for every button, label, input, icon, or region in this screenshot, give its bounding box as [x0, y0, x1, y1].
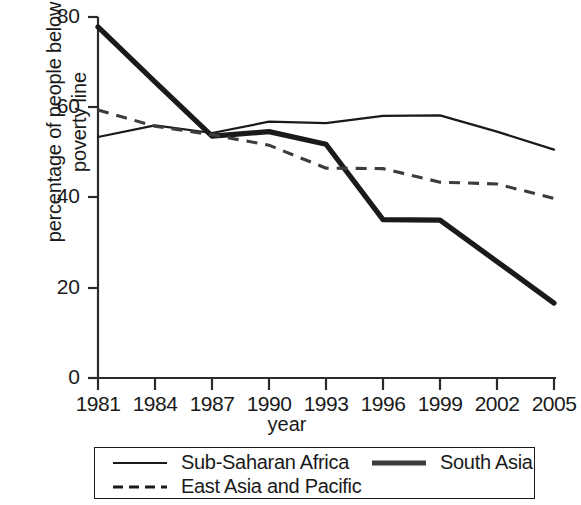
x-axis-title: year — [0, 413, 574, 436]
legend-item-south-asia: South Asia — [371, 451, 533, 474]
series-line-south-asia — [98, 27, 554, 303]
legend-label-south-asia: South Asia — [440, 451, 533, 474]
y-tick-label-80: 80 — [36, 4, 80, 28]
y-axis-ticks — [88, 17, 98, 378]
y-tick-label-20: 20 — [36, 275, 80, 299]
legend-swatch-solid-thin-icon — [112, 453, 168, 473]
legend-item-sub-saharan-africa: Sub-Saharan Africa — [112, 451, 349, 474]
legend-label-east-asia-and-pacific: East Asia and Pacific — [181, 475, 361, 498]
legend-label-sub-saharan-africa: Sub-Saharan Africa — [181, 451, 349, 474]
legend-item-east-asia-and-pacific: East Asia and Pacific — [112, 475, 361, 498]
x-axis-ticks — [98, 378, 554, 390]
y-tick-label-60: 60 — [36, 94, 80, 118]
y-tick-label-40: 40 — [36, 184, 80, 208]
chart-legend: Sub-Saharan Africa East Asia and Pacific… — [94, 447, 535, 499]
y-tick-label-0: 0 — [36, 365, 80, 389]
legend-swatch-dashed-icon — [112, 477, 168, 497]
legend-swatch-solid-thick-icon — [371, 453, 427, 473]
